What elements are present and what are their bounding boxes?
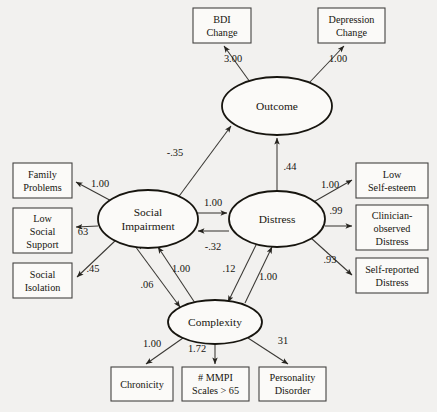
indicator-clinician-observed-distress: Clinician- observed Distress [356,205,428,250]
indicator-social-isolation-line1: Social [30,269,56,280]
indicator-low-social-support-line3: Support [26,239,58,250]
coef-complexity-to-mmpi-scales: 1.72 [188,343,206,354]
indicator-bdi-change-line2: Change [206,27,238,38]
indicator-low-social-support: Low Social Support [13,208,72,253]
arrow-outcome-to-bdi-change [224,46,250,82]
indicator-mmpi-scales-line2: Scales > 65 [192,385,239,396]
latent-social-impairment-label-line1: Social [134,206,162,218]
indicator-family-problems: Family Problems [13,163,72,198]
indicator-social-isolation-line2: Isolation [25,282,61,293]
indicator-low-social-support-line2: Social [30,226,56,237]
coef-distress-to-clinician-observed-distress: .99 [330,205,343,216]
sem-path-diagram: BDI Change Depression Change Family Prob… [0,0,437,412]
latent-distress: Distress [229,191,325,247]
indicator-self-reported-distress: Self-reported Distress [356,258,428,293]
indicator-depression-change: Depression Change [318,8,385,43]
indicator-low-social-support-line1: Low [33,213,52,224]
indicator-bdi-change: BDI Change [193,8,251,43]
indicator-depression-change-line2: Change [336,27,368,38]
coef-distress-to-complexity: .12 [223,263,236,274]
indicator-low-self-esteem: Low Self-esteem [356,163,428,198]
indicator-personality-disorder-line2: Disorder [275,385,311,396]
latent-social-impairment: Social Impairment [98,190,198,248]
latent-complexity-label: Complexity [188,316,242,328]
coef-social-impairment-to-outcome: -.35 [167,147,183,158]
latent-distress-label: Distress [259,213,296,225]
indicator-clinician-observed-distress-line2: observed [374,223,411,234]
latent-outcome: Outcome [222,77,332,135]
coef-social-impairment-to-low-social-support: 63 [78,226,88,237]
coef-distress-to-outcome: .44 [284,161,298,172]
coef-social-impairment-to-family-problems: 1.00 [91,178,109,189]
latent-variable-ellipses: Outcome Social Impairment Distress Compl… [98,77,332,344]
indicator-family-problems-line2: Problems [23,182,62,193]
indicator-mmpi-scales: # MMPI Scales > 65 [182,367,249,401]
coef-outcome-to-depression-change: 1.00 [329,53,347,64]
indicator-personality-disorder-line1: Personality [270,372,317,383]
arrow-outcome-to-depression-change [309,46,344,83]
latent-outcome-label: Outcome [256,100,298,112]
indicator-low-self-esteem-line1: Low [383,169,402,180]
indicator-self-reported-distress-line1: Self-reported [365,264,419,275]
arrow-complexity-to-social-impairment [158,247,195,303]
indicator-low-self-esteem-line2: Self-esteem [368,182,416,193]
coef-complexity-to-chronicity: 1.00 [143,338,161,349]
latent-complexity: Complexity [168,300,262,344]
indicator-bdi-change-line1: BDI [213,14,231,25]
coef-social-impairment-to-complexity: .06 [141,279,154,290]
indicator-mmpi-scales-line1: # MMPI [198,372,233,383]
indicator-family-problems-line1: Family [28,169,58,180]
indicator-chronicity: Chronicity [111,367,173,401]
indicator-depression-change-line1: Depression [329,14,375,25]
coef-complexity-to-distress: 1.00 [259,271,277,282]
coef-distress-to-social-impairment: -.32 [205,241,221,252]
coef-distress-to-self-reported-distress: .93 [324,254,337,265]
arrow-social-impairment-to-complexity [135,246,180,307]
indicator-chronicity-line1: Chronicity [120,379,164,390]
coef-complexity-to-social-impairment: 1.00 [172,263,190,274]
latent-social-impairment-label-line2: Impairment [121,220,175,232]
coef-complexity-to-personality-disorder: 31 [278,335,288,346]
indicator-clinician-observed-distress-line1: Clinician- [372,210,413,221]
indicator-clinician-observed-distress-line3: Distress [376,236,409,247]
coef-social-impairment-to-distress: 1.00 [204,197,222,208]
coef-outcome-to-bdi-change: 3.00 [224,53,242,64]
coef-social-impairment-to-social-isolation: .45 [87,263,100,274]
indicator-social-isolation: Social Isolation [13,263,72,298]
indicator-personality-disorder: Personality Disorder [259,367,326,401]
indicator-self-reported-distress-line2: Distress [376,277,409,288]
coef-distress-to-low-self-esteem: 1.00 [321,179,339,190]
